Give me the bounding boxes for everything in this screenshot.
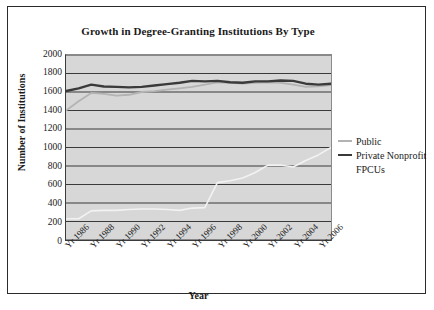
y-tick-label: 0	[22, 236, 62, 247]
y-tick-label: 2000	[22, 49, 62, 60]
plot-svg	[66, 55, 331, 240]
legend-item-public: Public	[338, 134, 434, 148]
x-axis-tick-labels: Yr 1986Yr 1988Yr 1990Yr 1992Yr 1994Yr 19…	[65, 243, 335, 289]
legend-label-private-nonprofit: Private Nonprofit	[356, 150, 426, 161]
chart-title: Growth in Degree-Granting Institutions B…	[8, 25, 388, 37]
series-lines	[66, 80, 331, 218]
y-tick-label: 1800	[22, 67, 62, 78]
y-tick-label: 200	[22, 217, 62, 228]
y-tick-label: 800	[22, 161, 62, 172]
y-axis-tick-labels: 2000180016001400120010008006004002000	[22, 48, 62, 248]
y-tick-label: 1000	[22, 142, 62, 153]
x-axis-title: Year	[65, 290, 332, 301]
legend-label-public: Public	[356, 136, 382, 147]
y-tick-label: 600	[22, 179, 62, 190]
series-line-fpcus	[66, 148, 331, 219]
y-tick-label: 1600	[22, 86, 62, 97]
y-tick-label: 1400	[22, 105, 62, 116]
chart-legend: Public Private Nonprofit FPCUs	[338, 134, 434, 176]
public-line-swatch	[338, 140, 352, 142]
plot-area	[65, 54, 332, 241]
legend-label-fpcus: FPCUs	[356, 164, 385, 175]
figure-frame: Growth in Degree-Granting Institutions B…	[7, 6, 426, 294]
chart-figure: Growth in Degree-Granting Institutions B…	[0, 0, 434, 310]
legend-item-private-nonprofit: Private Nonprofit	[338, 148, 434, 162]
y-tick-label: 400	[22, 198, 62, 209]
y-tick-label: 1200	[22, 123, 62, 134]
gridlines	[66, 55, 331, 240]
nonprofit-line-swatch	[338, 154, 352, 156]
legend-item-fpcus: FPCUs	[338, 162, 434, 176]
